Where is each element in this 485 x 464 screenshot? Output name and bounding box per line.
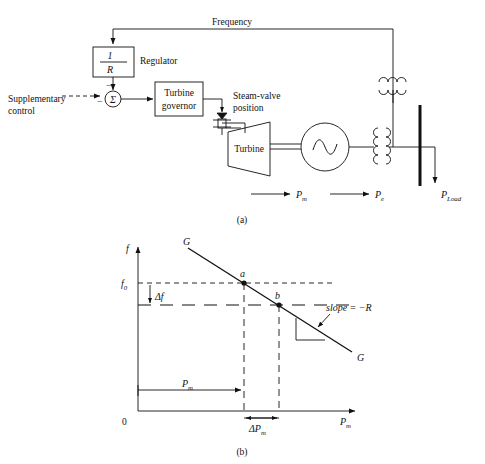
turbine-shape: Turbine (228, 122, 270, 176)
turbine-governor-block: Turbine governor (155, 82, 203, 116)
figure-root: Frequency 1 R Regulator − Σ − Supplement… (0, 0, 485, 464)
step-up-transformer-icon (374, 128, 391, 164)
origin-label: 0 (122, 417, 127, 427)
droop-line-label-end: G (357, 352, 364, 363)
pload-label: PLoad (440, 189, 462, 202)
summing-junction: Σ (105, 91, 121, 107)
potential-transformer-icon (379, 78, 406, 148)
generator-symbol (301, 123, 349, 171)
block-diagram-a: Frequency 1 R Regulator − Σ − Supplement… (8, 17, 462, 226)
supplementary-control-label-1: Supplementary (8, 94, 66, 104)
frequency-label: Frequency (212, 17, 252, 27)
regulator-block: 1 R (93, 47, 134, 77)
regulator-label: Regulator (140, 56, 178, 66)
f0-label: f0 (121, 278, 128, 291)
pe-label: Pe (374, 189, 384, 202)
droop-characteristic-chart-b: f Pm 0 f0 Δf G G a b slope = −R (121, 236, 372, 458)
droop-line-label-start: G (183, 236, 190, 247)
steam-valve-label-2: position (233, 103, 264, 113)
turbine-governor-label-1: Turbine (164, 88, 194, 98)
minus-sign-top: − (106, 81, 111, 91)
delta-f-label: Δf (154, 291, 165, 302)
slope-right-angle-marker (296, 318, 325, 340)
minus-sign-left: − (97, 97, 102, 107)
delta-pm-label: ΔPm (248, 423, 266, 436)
slope-pointer-arrow (318, 314, 330, 327)
pm-measure-label: Pm (181, 378, 193, 391)
turbine-governor-label-2: governor (162, 101, 197, 111)
slope-annotation: slope = −R (326, 302, 372, 313)
caption-b: (b) (236, 447, 247, 458)
steam-valve-label-1: Steam-valve (233, 91, 280, 101)
y-axis-label: f (126, 243, 130, 254)
point-a-label: a (240, 268, 245, 279)
point-b-label: b (275, 290, 280, 301)
turbine-generator-shaft (270, 144, 301, 149)
pm-label: Pm (295, 189, 307, 202)
caption-a: (a) (237, 215, 248, 226)
power-system-figure: Frequency 1 R Regulator − Σ − Supplement… (0, 0, 485, 464)
summing-symbol: Σ (109, 94, 116, 105)
regulator-numerator: 1 (108, 50, 113, 61)
turbine-label: Turbine (234, 144, 264, 154)
droop-line-G (188, 248, 352, 352)
supplementary-control-label-2: control (8, 106, 35, 116)
x-axis-label: Pm (339, 416, 351, 429)
regulator-denominator: R (106, 64, 113, 75)
